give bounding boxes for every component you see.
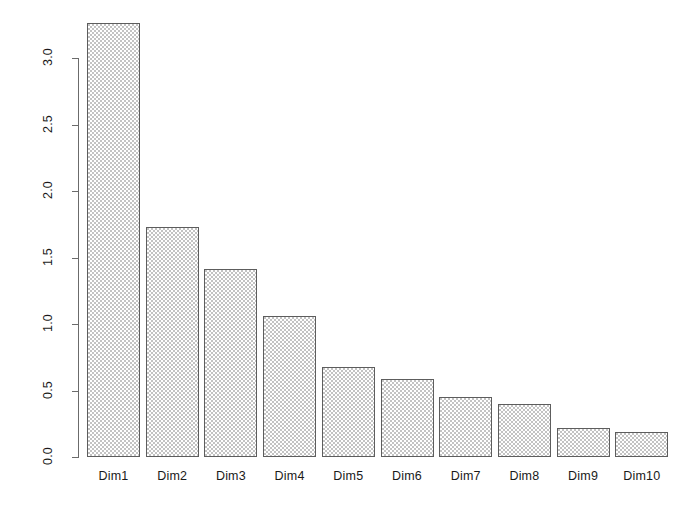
bar-dim9: [557, 428, 610, 457]
x-axis-label-dim7: Dim7: [433, 469, 498, 483]
bar-dim4: [263, 316, 316, 457]
bar-dim1: [87, 23, 140, 457]
x-axis-label-dim2: Dim2: [140, 469, 205, 483]
x-axis-label-dim8: Dim8: [492, 469, 557, 483]
x-axis-label-dim5: Dim5: [316, 469, 381, 483]
bar-dim10: [615, 432, 668, 457]
bar-dim7: [439, 397, 492, 457]
bar-dim8: [498, 404, 551, 457]
x-axis-label-dim10: Dim10: [609, 469, 674, 483]
x-axis-label-dim3: Dim3: [198, 469, 263, 483]
x-axis-label-dim1: Dim1: [81, 469, 146, 483]
x-axis-label-dim4: Dim4: [257, 469, 322, 483]
bar-dim5: [322, 367, 375, 457]
bar-dim6: [381, 379, 434, 457]
scree-plot: 0.00.51.01.52.02.53.0 Dim1Dim2Dim3Dim4Di…: [0, 0, 700, 523]
bar-dim3: [204, 269, 257, 457]
x-axis-label-dim6: Dim6: [375, 469, 440, 483]
bar-dim2: [146, 227, 199, 457]
bars-layer: [0, 0, 700, 523]
x-axis-label-dim9: Dim9: [551, 469, 616, 483]
